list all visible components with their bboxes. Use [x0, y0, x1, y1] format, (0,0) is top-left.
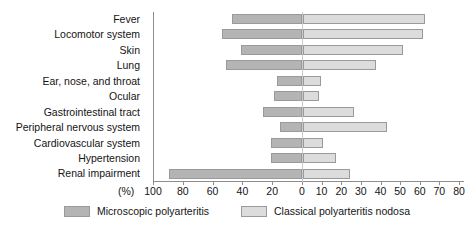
axis-tick-label: 0 [299, 185, 305, 197]
axis-tick-label: 60 [207, 185, 219, 197]
bar-row [153, 74, 464, 89]
category-label: Ear, nose, and throat [0, 74, 146, 89]
bar-microscopic-polyarteritis [222, 29, 302, 39]
axis-tick-label: 20 [266, 185, 278, 197]
bar-classical-polyarteritis-nodosa [303, 14, 425, 24]
bar-row [153, 58, 464, 73]
legend-item: Classical polyarteritis nodosa [241, 205, 410, 217]
category-label: Peripheral nervous system [0, 120, 146, 135]
chart-legend: Microscopic polyarteritisClassical polya… [0, 205, 474, 217]
legend-label: Classical polyarteritis nodosa [274, 205, 410, 217]
axis-tick-label: 80 [177, 185, 189, 197]
bar-classical-polyarteritis-nodosa [303, 76, 321, 86]
axis-tick-label: 50 [394, 185, 406, 197]
bar-row [153, 151, 464, 166]
axis-tick-label: 60 [414, 185, 426, 197]
bar-microscopic-polyarteritis [280, 122, 302, 132]
bar-row [153, 12, 464, 27]
axis-unit-label: (%) [118, 185, 134, 197]
bar-microscopic-polyarteritis [241, 45, 302, 55]
bar-row [153, 27, 464, 42]
bar-microscopic-polyarteritis [263, 107, 302, 117]
bar-microscopic-polyarteritis [232, 14, 302, 24]
bar-classical-polyarteritis-nodosa [303, 60, 376, 70]
category-label: Skin [0, 43, 146, 58]
axis-tick-label: 40 [375, 185, 387, 197]
legend-swatch-icon [241, 206, 267, 217]
bar-microscopic-polyarteritis [277, 76, 302, 86]
axis-tick-label: 80 [453, 185, 465, 197]
bar-row [153, 43, 464, 58]
category-label: Ocular [0, 89, 146, 104]
category-label: Locomotor system [0, 27, 146, 42]
bar-row [153, 136, 464, 151]
category-label: Hypertension [0, 151, 146, 166]
legend-label: Microscopic polyarteritis [97, 205, 209, 217]
bidirectional-bar-chart: FeverLocomotor systemSkinLungEar, nose, … [0, 0, 474, 233]
axis-tick-label: 20 [335, 185, 347, 197]
category-label: Renal impairment [0, 166, 146, 181]
bar-row [153, 167, 464, 182]
category-label: Fever [0, 12, 146, 27]
bar-row [153, 89, 464, 104]
axis-tick-label: 10 [316, 185, 328, 197]
legend-item: Microscopic polyarteritis [64, 205, 209, 217]
bar-microscopic-polyarteritis [271, 138, 302, 148]
plot-area: 1008060402001020304050607080 [153, 12, 464, 182]
category-label: Cardiovascular system [0, 136, 146, 151]
bar-classical-polyarteritis-nodosa [303, 29, 423, 39]
bar-microscopic-polyarteritis [274, 91, 302, 101]
bar-row [153, 120, 464, 135]
bar-microscopic-polyarteritis [271, 153, 302, 163]
bar-classical-polyarteritis-nodosa [303, 45, 403, 55]
bar-classical-polyarteritis-nodosa [303, 122, 387, 132]
category-label: Lung [0, 58, 146, 73]
axis-tick-label: 40 [237, 185, 249, 197]
bar-microscopic-polyarteritis [226, 60, 302, 70]
bar-classical-polyarteritis-nodosa [303, 138, 323, 148]
bar-microscopic-polyarteritis [169, 169, 302, 179]
axis-tick-label: 30 [355, 185, 367, 197]
axis-tick-label: 100 [144, 185, 162, 197]
bar-classical-polyarteritis-nodosa [303, 169, 350, 179]
legend-swatch-icon [64, 206, 90, 217]
category-label: Gastrointestinal tract [0, 105, 146, 120]
bar-classical-polyarteritis-nodosa [303, 91, 319, 101]
bar-classical-polyarteritis-nodosa [303, 107, 354, 117]
bar-row [153, 105, 464, 120]
category-axis-labels: FeverLocomotor systemSkinLungEar, nose, … [0, 12, 146, 182]
axis-tick-label: 70 [434, 185, 446, 197]
bar-classical-polyarteritis-nodosa [303, 153, 336, 163]
